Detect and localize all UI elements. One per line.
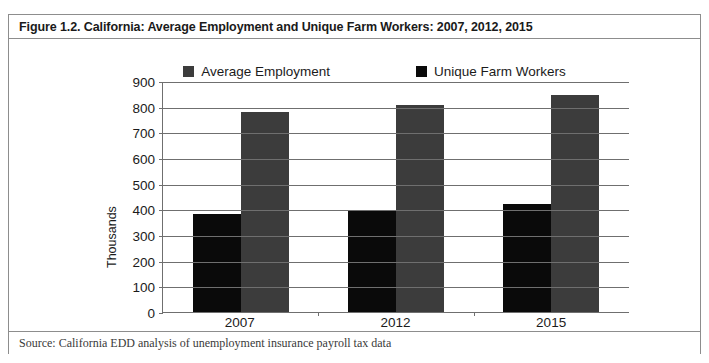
gridline xyxy=(163,262,629,263)
y-axis-tick-mark xyxy=(159,159,163,160)
gridline xyxy=(163,108,629,109)
bar-group xyxy=(476,82,626,312)
x-axis-tick-label: 2012 xyxy=(320,315,470,330)
x-axis-tick-label: 2007 xyxy=(165,315,315,330)
gridline xyxy=(163,185,629,186)
y-axis-tick-mark xyxy=(159,262,163,263)
bars-layer xyxy=(163,82,629,312)
y-axis-tick-label: 100 xyxy=(132,280,155,295)
bar[interactable] xyxy=(503,204,551,312)
gridline xyxy=(163,159,629,160)
y-axis-tick-mark xyxy=(159,313,163,314)
y-axis-tick-mark xyxy=(159,82,163,83)
gridline xyxy=(163,236,629,237)
plot-wrapper: Thousands 0100200300400500600700800900 2… xyxy=(9,82,700,331)
y-axis-tick-labels: 0100200300400500600700800900 xyxy=(119,82,161,313)
legend-label-unique-farm-workers: Unique Farm Workers xyxy=(434,64,566,79)
legend-swatch-icon-average-employment xyxy=(183,66,194,77)
legend-label-average-employment: Average Employment xyxy=(201,64,330,79)
plot-area xyxy=(162,82,629,313)
gridline xyxy=(163,82,629,83)
bar[interactable] xyxy=(551,95,599,312)
source-note: Source: California EDD analysis of unemp… xyxy=(9,336,391,351)
gridline xyxy=(163,287,629,288)
y-axis-tick-label: 0 xyxy=(147,306,155,321)
y-axis-tick-label: 200 xyxy=(132,254,155,269)
legend-item-unique-farm-workers[interactable]: Unique Farm Workers xyxy=(416,64,566,79)
bar-group xyxy=(321,82,471,312)
page-title: Figure 1.2. California: Average Employme… xyxy=(9,20,533,34)
y-axis-tick-mark xyxy=(159,210,163,211)
y-axis-tick-label: 500 xyxy=(132,177,155,192)
x-axis-tick-label: 2015 xyxy=(476,315,626,330)
figure-source-bar: Source: California EDD analysis of unemp… xyxy=(9,331,700,354)
y-axis-tick-label: 300 xyxy=(132,229,155,244)
y-axis-tick-mark xyxy=(159,287,163,288)
y-axis-tick-mark xyxy=(159,236,163,237)
bar[interactable] xyxy=(241,112,289,312)
y-axis-tick-mark xyxy=(159,185,163,186)
legend-swatch-icon-unique-farm-workers xyxy=(416,66,427,77)
chart-legend: Average Employment Unique Farm Workers xyxy=(9,61,700,81)
legend-item-average-employment[interactable]: Average Employment xyxy=(183,64,330,79)
y-axis-tick-mark xyxy=(159,133,163,134)
figure-container: Figure 1.2. California: Average Employme… xyxy=(0,0,709,363)
gridline xyxy=(163,210,629,211)
y-axis-tick-label: 800 xyxy=(132,100,155,115)
bar[interactable] xyxy=(396,105,444,312)
gridline xyxy=(163,133,629,134)
y-axis-tick-label: 700 xyxy=(132,126,155,141)
bar-group xyxy=(166,82,316,312)
chart-body: Average Employment Unique Farm Workers T… xyxy=(9,39,700,331)
bar[interactable] xyxy=(193,214,241,312)
y-axis-tick-label: 600 xyxy=(132,152,155,167)
y-axis-tick-label: 400 xyxy=(132,203,155,218)
y-axis-tick-mark xyxy=(159,108,163,109)
y-axis-tick-label: 900 xyxy=(132,75,155,90)
figure-title-bar: Figure 1.2. California: Average Employme… xyxy=(9,15,700,39)
